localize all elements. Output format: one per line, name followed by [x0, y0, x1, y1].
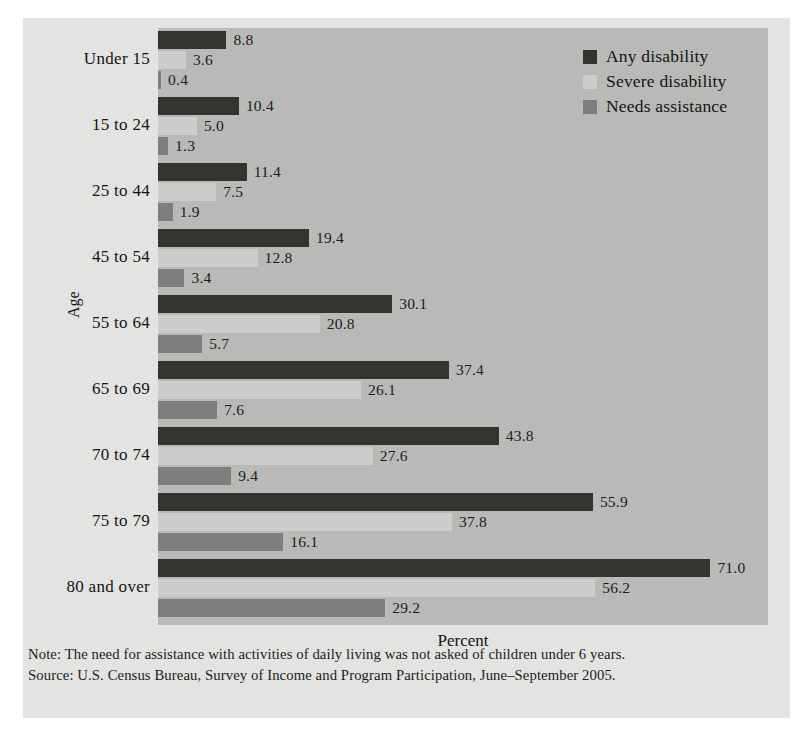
- bar-value-label: 10.4: [246, 97, 274, 115]
- bar-value-label: 16.1: [290, 533, 318, 551]
- category-label: 45 to 54: [92, 247, 150, 267]
- bar-group: 19.412.83.4: [158, 229, 768, 287]
- category-label: 80 and over: [66, 577, 150, 597]
- bar-group: 55.937.816.1: [158, 493, 768, 551]
- bar-value-label: 55.9: [600, 493, 628, 511]
- category-label: 65 to 69: [92, 379, 150, 399]
- bar: [158, 361, 449, 379]
- bar-group: 37.426.17.6: [158, 361, 768, 419]
- bar: [158, 229, 309, 247]
- bar: [158, 513, 452, 531]
- bar-value-label: 37.4: [456, 361, 484, 379]
- bar-value-label: 7.6: [224, 401, 244, 419]
- bar-value-label: 19.4: [316, 229, 344, 247]
- bar-value-label: 29.2: [392, 599, 420, 617]
- bar-value-label: 12.8: [265, 249, 293, 267]
- bar-value-label: 71.0: [717, 559, 745, 577]
- legend-swatch-icon: [583, 75, 597, 89]
- bar-value-label: 27.6: [380, 447, 408, 465]
- category-label: 55 to 64: [92, 313, 150, 333]
- category-label: 70 to 74: [92, 445, 150, 465]
- bar: [158, 335, 202, 353]
- bar: [158, 137, 168, 155]
- note-line: Source: U.S. Census Bureau, Survey of In…: [28, 665, 768, 686]
- bar-value-label: 56.2: [602, 579, 630, 597]
- bar-value-label: 0.4: [168, 71, 188, 89]
- legend-item: Needs assistance: [583, 96, 727, 117]
- bar-group: 11.47.51.9: [158, 163, 768, 221]
- bar: [158, 427, 499, 445]
- note-line: Note: The need for assistance with activ…: [28, 644, 768, 665]
- bar: [158, 467, 231, 485]
- bar-value-label: 5.7: [209, 335, 229, 353]
- bar: [158, 381, 361, 399]
- bar: [158, 559, 710, 577]
- bar-value-label: 26.1: [368, 381, 396, 399]
- bar: [158, 447, 373, 465]
- y-axis-label: Age: [65, 291, 83, 318]
- bar: [158, 117, 197, 135]
- bar-value-label: 3.4: [191, 269, 211, 287]
- figure-panel: Age 8.83.60.410.45.01.311.47.51.919.412.…: [23, 18, 790, 718]
- bar-value-label: 11.4: [254, 163, 281, 181]
- bar: [158, 97, 239, 115]
- bar: [158, 579, 595, 597]
- bar-value-label: 37.8: [459, 513, 487, 531]
- bar: [158, 51, 186, 69]
- bar-value-label: 3.6: [193, 51, 213, 69]
- bar: [158, 599, 385, 617]
- bar: [158, 31, 226, 49]
- bar-value-label: 9.4: [238, 467, 258, 485]
- bar-value-label: 1.9: [180, 203, 200, 221]
- bar-group: 43.827.69.4: [158, 427, 768, 485]
- bar-value-label: 8.8: [233, 31, 253, 49]
- legend-label: Needs assistance: [606, 96, 727, 117]
- bar: [158, 315, 320, 333]
- bar: [158, 493, 593, 511]
- category-label: 15 to 24: [92, 115, 150, 135]
- bar-value-label: 43.8: [506, 427, 534, 445]
- legend-item: Severe disability: [583, 71, 727, 92]
- bar: [158, 183, 216, 201]
- legend-swatch-icon: [583, 100, 597, 114]
- bar: [158, 71, 161, 89]
- bar: [158, 269, 184, 287]
- figure-notes: Note: The need for assistance with activ…: [28, 644, 768, 686]
- bar-value-label: 20.8: [327, 315, 355, 333]
- bar: [158, 295, 392, 313]
- category-label: Under 15: [84, 49, 150, 69]
- bar-value-label: 5.0: [204, 117, 224, 135]
- bar-group: 71.056.229.2: [158, 559, 768, 617]
- legend-swatch-icon: [583, 50, 597, 64]
- bar: [158, 163, 247, 181]
- bar-group: 30.120.85.7: [158, 295, 768, 353]
- category-label: 25 to 44: [92, 181, 150, 201]
- legend-label: Severe disability: [606, 71, 727, 92]
- bar: [158, 533, 283, 551]
- bar: [158, 203, 173, 221]
- bar-value-label: 7.5: [223, 183, 243, 201]
- bar: [158, 249, 258, 267]
- legend-label: Any disability: [606, 46, 708, 67]
- category-label: 75 to 79: [92, 511, 150, 531]
- legend: Any disabilitySevere disabilityNeeds ass…: [583, 46, 727, 121]
- bar: [158, 401, 217, 419]
- bar-value-label: 30.1: [399, 295, 427, 313]
- legend-item: Any disability: [583, 46, 727, 67]
- bar-value-label: 1.3: [175, 137, 195, 155]
